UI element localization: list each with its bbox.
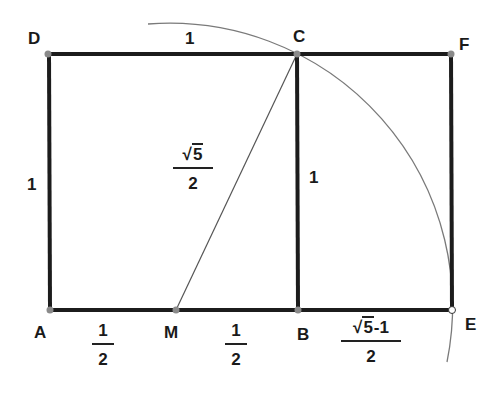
label-AD-length: 1 <box>27 176 36 193</box>
label-BC-length: 1 <box>309 169 318 186</box>
point-A <box>47 307 54 314</box>
fraction-numerator: √5 <box>173 146 213 169</box>
fraction-denominator: 2 <box>92 345 114 368</box>
label-MB-length: 1 2 <box>225 322 247 368</box>
fraction-denominator: 2 <box>341 342 401 365</box>
point-B <box>295 307 302 314</box>
fraction-denominator: 2 <box>225 345 247 368</box>
point-E <box>449 307 456 314</box>
sqrt-symbol: √5 <box>183 146 204 163</box>
sqrt-symbol: √5 <box>353 319 374 336</box>
fraction-numerator: 1 <box>92 322 114 345</box>
label-DC-length: 1 <box>185 30 194 47</box>
segment-BC <box>297 54 298 310</box>
fraction-numerator: √5-1 <box>341 319 401 342</box>
diagram-canvas <box>0 0 499 405</box>
label-point-C: C <box>293 28 305 45</box>
label-BE-length: √5-1 2 <box>341 319 401 365</box>
segment-AD <box>49 54 50 310</box>
label-AM-length: 1 2 <box>92 322 114 368</box>
point-F <box>448 51 455 58</box>
label-point-A: A <box>34 324 46 341</box>
label-MC-length: √5 2 <box>173 146 213 192</box>
label-point-E: E <box>465 316 476 333</box>
fraction-denominator: 2 <box>173 169 213 192</box>
segment-EF <box>451 54 452 310</box>
fraction-numerator: 1 <box>225 322 247 345</box>
point-M <box>173 307 180 314</box>
label-point-D: D <box>28 30 40 47</box>
point-D <box>45 51 52 58</box>
label-point-B: B <box>297 326 309 343</box>
point-C <box>294 51 301 58</box>
label-point-F: F <box>459 36 469 53</box>
label-point-M: M <box>164 324 178 341</box>
